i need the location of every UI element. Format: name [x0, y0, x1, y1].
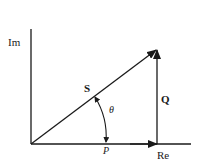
q-label: Q	[161, 94, 170, 105]
s-vector	[31, 50, 156, 144]
s-label: S	[84, 83, 90, 94]
theta-arc	[95, 97, 106, 142]
power-triangle-diagram: Im Re S Q P θ	[0, 0, 203, 165]
real-axis-label: Re	[157, 150, 169, 161]
diagram-canvas	[0, 0, 203, 165]
theta-label: θ	[109, 105, 114, 115]
p-label: P	[103, 146, 109, 156]
imag-axis-label: Im	[8, 37, 20, 48]
